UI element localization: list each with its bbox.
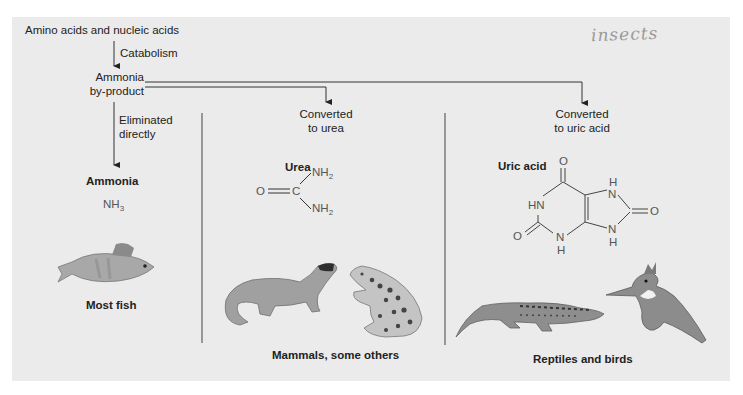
fish-illustration <box>58 243 154 282</box>
uric-atom-hn: HN <box>528 198 545 212</box>
path-label-urea: Converted to urea <box>296 107 356 135</box>
path-label-uric-acid: Converted to uric acid <box>546 107 618 135</box>
urea-atom-o: O <box>256 184 265 198</box>
uric-atom-o-right: O <box>650 204 659 218</box>
compound-name-urea: Urea <box>285 160 311 174</box>
intermediate-label: Ammonia by-product <box>82 70 144 98</box>
uric-acid-arrow <box>145 82 582 103</box>
ferret-illustration <box>225 263 336 325</box>
uric-atom-n-top: N <box>608 187 616 201</box>
compound-name-uric-acid: Uric acid <box>498 159 547 173</box>
uric-atom-h-bottom: H <box>557 243 565 257</box>
kingfisher-illustration <box>606 262 706 343</box>
urea-arrow <box>145 87 326 102</box>
organisms-label-reptiles-birds: Reptiles and birds <box>533 352 633 366</box>
urea-atom-nh2-top: NH2 <box>312 165 333 184</box>
frog-illustration <box>350 266 422 337</box>
urea-atom-c: C <box>292 184 300 198</box>
handwritten-note: insects <box>591 23 659 45</box>
uric-atom-h-right: H <box>609 235 617 249</box>
urea-atom-nh2-bottom: NH2 <box>312 201 333 220</box>
organisms-label-mammals: Mammals, some others <box>272 348 399 362</box>
uric-atom-n-right: N <box>608 222 616 236</box>
source-label: Amino acids and nucleic acids <box>25 23 179 37</box>
uric-atom-o-top: O <box>559 154 568 168</box>
organisms-label-fish: Most fish <box>86 298 136 312</box>
uric-atom-n-bottom: N <box>556 230 564 244</box>
ammonia-formula: NH3 <box>103 197 124 216</box>
urea-structure <box>268 173 311 209</box>
process-label: Catabolism <box>120 46 178 60</box>
path-label-eliminated: Eliminated directly <box>119 113 173 141</box>
lizard-illustration <box>456 303 604 337</box>
compound-name-ammonia: Ammonia <box>86 174 138 188</box>
uric-atom-o-left: O <box>513 229 522 243</box>
